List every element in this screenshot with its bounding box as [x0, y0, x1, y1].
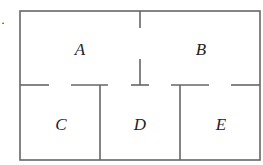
room-label-d: D — [133, 115, 147, 134]
room-label-c: C — [55, 115, 67, 134]
floor-plan-diagram: · A B C D E — [0, 0, 263, 165]
bullet-marker: · — [1, 16, 5, 30]
room-label-e: E — [215, 115, 227, 134]
room-label-b: B — [196, 40, 207, 59]
room-label-a: A — [74, 40, 86, 59]
